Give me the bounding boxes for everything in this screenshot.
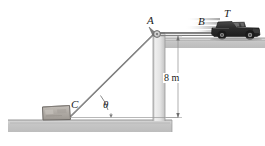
label-crate-c: C [71, 99, 78, 110]
label-pulley-a: A [147, 15, 154, 26]
diagram-canvas [0, 0, 265, 146]
incline-cable [70, 32, 156, 117]
label-truck-b: B [198, 16, 205, 27]
lower-ground [8, 120, 172, 132]
physics-diagram-figure: A B T C θ 8 m [0, 0, 265, 146]
crate-block [43, 106, 71, 121]
horizontal-cable [157, 33, 214, 36]
label-angle-theta: θ [103, 99, 108, 110]
label-height-dimension: 8 m [163, 73, 180, 83]
label-tension-t: T [224, 8, 230, 19]
